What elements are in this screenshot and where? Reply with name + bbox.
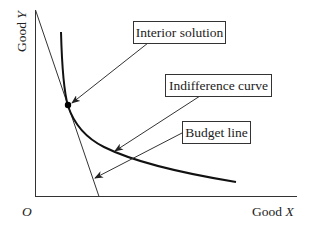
y-axis-label: Good Y — [14, 10, 29, 52]
interior-solution-arrow — [72, 43, 148, 103]
interior-solution-callout: Interior solution — [134, 22, 226, 44]
budget-line-label: Budget line — [185, 125, 248, 140]
consumer-choice-diagram: Interior solution Indifference curve Bud… — [0, 0, 312, 226]
x-axis-label: Good X — [252, 204, 294, 219]
interior-solution-label: Interior solution — [136, 25, 224, 40]
indifference-curve — [61, 32, 236, 182]
origin-label: O — [22, 204, 32, 219]
indifference-curve-label: Indifference curve — [169, 78, 268, 93]
budget-line-callout: Budget line — [183, 122, 251, 144]
optimum-point — [65, 102, 71, 108]
budget-line-arrow — [95, 133, 182, 178]
indifference-curve-callout: Indifference curve — [166, 75, 272, 97]
